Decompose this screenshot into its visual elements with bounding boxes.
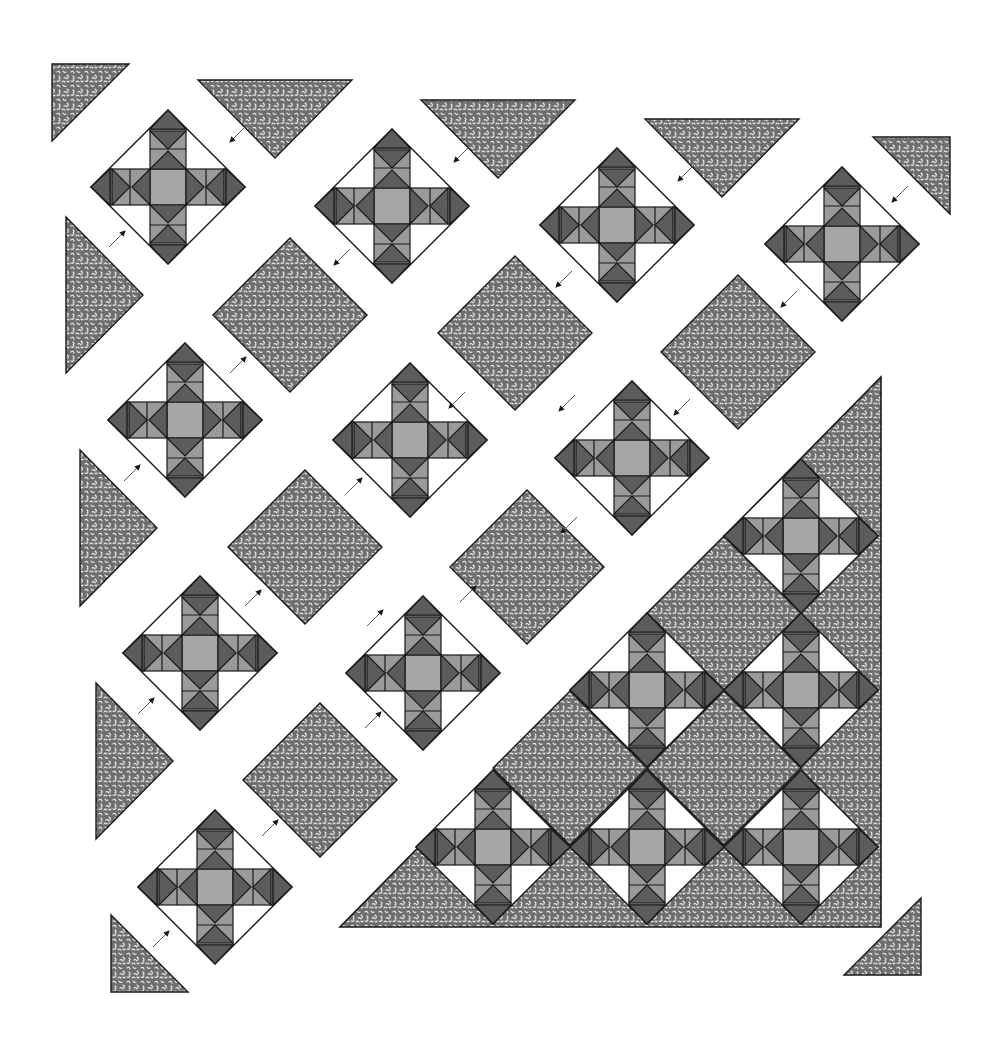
arrow-icon <box>230 357 246 373</box>
quilt-canvas <box>0 0 999 1055</box>
corner-triangle <box>111 915 188 992</box>
side-setting-triangle <box>645 119 799 197</box>
arrow-icon <box>674 399 690 415</box>
arrow-icon <box>262 820 278 836</box>
setting-square <box>243 703 397 857</box>
star-block <box>123 576 277 730</box>
setting-square <box>661 275 815 429</box>
arrow-icon <box>109 231 125 247</box>
side-setting-triangle <box>421 100 575 178</box>
arrow-icon <box>781 291 797 307</box>
arrow-icon <box>367 610 383 626</box>
arrow-icon <box>138 698 154 714</box>
arrow-icon <box>153 931 169 947</box>
star-block <box>555 381 709 535</box>
arrow-icon <box>892 186 908 202</box>
setting-square <box>228 470 382 624</box>
side-setting-triangle <box>198 80 352 158</box>
arrow-icon <box>346 478 362 494</box>
side-setting-triangle <box>80 450 157 606</box>
arrow-icon <box>561 517 577 533</box>
arrow-icon <box>460 586 476 602</box>
arrow-icon <box>334 249 350 265</box>
quilt-assembly-diagram <box>0 0 999 1055</box>
star-block <box>540 148 694 302</box>
star-block <box>315 129 469 283</box>
arrow-icon <box>678 165 694 181</box>
corner-triangle <box>873 137 950 214</box>
star-block <box>333 363 487 517</box>
arrow-icon <box>559 395 575 411</box>
arrow-icon <box>365 712 381 728</box>
side-setting-triangle <box>66 217 143 373</box>
star-block <box>765 167 919 321</box>
star-block <box>346 596 500 750</box>
setting-square <box>438 256 592 410</box>
arrow-icon <box>230 126 246 142</box>
setting-square <box>213 238 367 392</box>
arrow-icon <box>124 465 140 481</box>
arrow-icon <box>245 590 261 606</box>
star-block <box>91 110 245 264</box>
setting-square <box>450 490 604 644</box>
corner-triangle <box>52 64 129 141</box>
arrow-icon <box>449 392 465 408</box>
arrow-icon <box>556 271 572 287</box>
star-block <box>138 810 292 964</box>
side-setting-triangle <box>96 683 173 839</box>
arrow-icon <box>454 146 470 162</box>
